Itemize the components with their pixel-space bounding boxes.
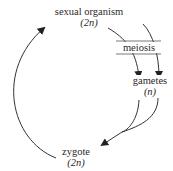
gametes-ploidy: (n) — [128, 86, 172, 97]
gametes-label: gametes (n) — [128, 75, 172, 97]
gametes-name: gametes — [128, 75, 172, 86]
meiosis-label: meiosis — [118, 42, 160, 53]
zygote-name: zygote — [56, 146, 96, 157]
organism-ploidy: (2n) — [54, 17, 124, 28]
organism-name: sexual organism — [54, 6, 124, 17]
gamete-to-zygote-line-2 — [122, 98, 158, 132]
zygote-label: zygote (2n) — [56, 146, 96, 168]
gamete-to-zygote-line-1 — [122, 100, 139, 132]
gamete-to-zygote-arrow — [102, 132, 122, 145]
zygote-ploidy: (2n) — [56, 157, 96, 168]
organism-label: sexual organism (2n) — [54, 6, 124, 28]
zygote-to-organism-arrow — [14, 28, 56, 158]
